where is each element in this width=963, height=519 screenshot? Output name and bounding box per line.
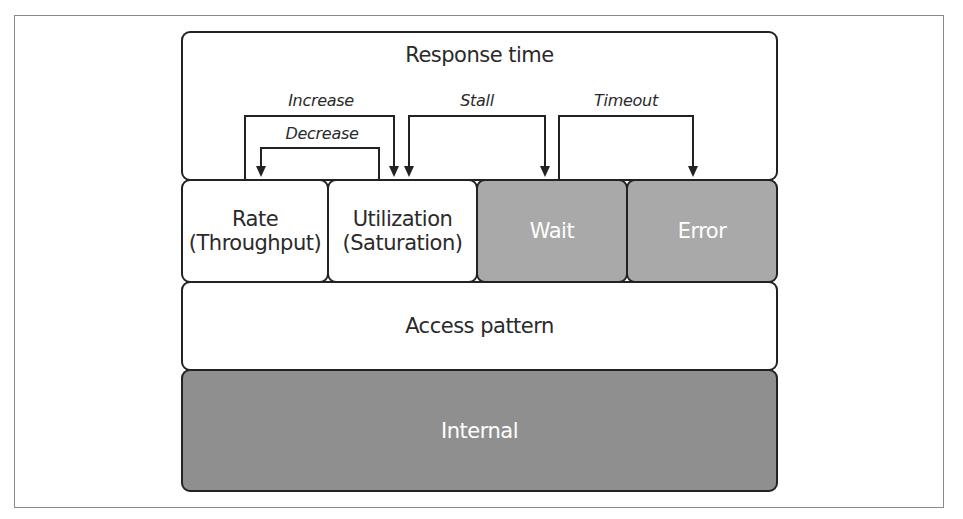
access-pattern-label: Access pattern — [405, 314, 554, 338]
utilization-box: Utilization (Saturation) — [327, 179, 478, 283]
decrease-label: Decrease — [286, 124, 359, 143]
internal-box: Internal — [181, 369, 778, 492]
timeout-label: Timeout — [594, 91, 658, 110]
saturation-label: (Saturation) — [343, 231, 463, 255]
error-label: Error — [678, 219, 727, 243]
access-pattern-box: Access pattern — [181, 281, 778, 371]
stall-label: Stall — [460, 91, 494, 110]
wait-label: Wait — [530, 219, 574, 243]
increase-label: Increase — [288, 91, 354, 110]
rate-label: Rate — [189, 207, 321, 231]
wait-box: Wait — [476, 179, 628, 283]
throughput-label: (Throughput) — [189, 231, 321, 255]
rate-box: Rate (Throughput) — [181, 179, 329, 283]
utilization-label: Utilization — [343, 207, 463, 231]
error-box: Error — [626, 179, 778, 283]
internal-label: Internal — [441, 419, 518, 443]
response-time-label: Response time — [405, 43, 553, 67]
